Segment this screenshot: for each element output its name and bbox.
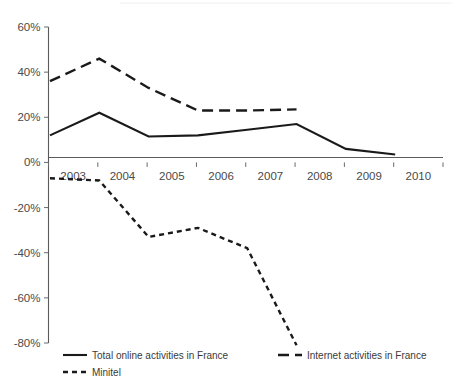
y-axis: 60%40%20%0%-20%-40%-60%-80% [14,21,49,349]
y-tick-label: -80% [14,337,41,349]
y-tick-label: -20% [14,202,41,214]
x-tick-label: 2005 [159,170,185,182]
series-line-2 [50,178,297,345]
legend-label-1: Internet activities in France [307,350,427,361]
y-axis-ticks [44,27,49,343]
y-tick-label: 60% [17,21,40,33]
y-tick-label: -60% [14,292,41,304]
y-axis-tick-labels: 60%40%20%0%-20%-40%-60%-80% [14,21,41,349]
x-tick-label: 2006 [208,170,234,182]
y-tick-label: 20% [17,111,40,123]
line-chart: 60%40%20%0%-20%-40%-60%-80% 200320042005… [0,0,452,385]
x-tick-label: 2004 [110,170,136,182]
x-axis-ticks [49,162,444,167]
chart-canvas: 60%40%20%0%-20%-40%-60%-80% 200320042005… [0,0,452,385]
x-tick-label: 2008 [307,170,333,182]
legend-label-2: Minitel [92,367,121,378]
x-axis-tick-labels: 20032004200520062007200820092010 [60,170,431,182]
x-tick-label: 2007 [258,170,284,182]
x-tick-label: 2009 [356,170,382,182]
legend-label-0: Total online activities in France [92,350,229,361]
y-tick-label: 0% [24,156,41,168]
y-tick-label: 40% [17,66,40,78]
data-series-group [50,59,395,346]
series-line-1 [50,59,297,111]
x-axis: 20032004200520062007200820092010 [49,158,444,183]
x-tick-label: 2003 [60,170,86,182]
chart-legend: Total online activities in FranceInterne… [63,350,427,378]
series-line-0 [50,113,395,155]
y-tick-label: -40% [14,247,41,259]
x-tick-label: 2010 [406,170,432,182]
